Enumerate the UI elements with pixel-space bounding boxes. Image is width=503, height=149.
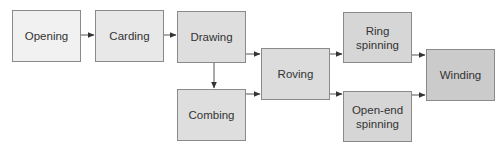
node-carding: Carding bbox=[95, 10, 164, 62]
node-label: Carding bbox=[109, 29, 149, 43]
node-ring-spinning: Ring spinning bbox=[343, 12, 412, 63]
node-label: Roving bbox=[278, 67, 314, 81]
node-winding: Winding bbox=[426, 49, 495, 101]
node-open-end-spinning: Open-end spinning bbox=[343, 91, 412, 142]
node-roving: Roving bbox=[261, 48, 330, 100]
node-label: Open-end spinning bbox=[352, 103, 403, 131]
node-drawing: Drawing bbox=[177, 11, 246, 63]
node-label: Ring spinning bbox=[356, 24, 399, 52]
node-label: Winding bbox=[440, 68, 482, 82]
node-combing: Combing bbox=[177, 89, 246, 141]
node-opening: Opening bbox=[12, 10, 81, 62]
node-label: Combing bbox=[188, 108, 234, 122]
node-label: Drawing bbox=[190, 30, 232, 44]
node-label: Opening bbox=[25, 29, 68, 43]
